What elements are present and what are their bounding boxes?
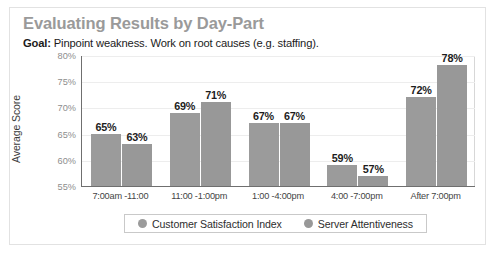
bar-group: 69%71% (170, 55, 231, 186)
bar[interactable] (437, 65, 467, 186)
legend-label: Customer Satisfaction Index (152, 218, 282, 230)
y-axis-tick-label: 75% (58, 77, 76, 87)
bar-group: 65%63% (91, 55, 152, 186)
bar-chart: Average Score 80%75%70%65%60%55% 65%63%6… (23, 56, 475, 208)
bar-value-label: 69% (165, 100, 205, 112)
goal-subtitle: Goal: Pinpoint weakness. Work on root ca… (23, 37, 319, 49)
bar[interactable] (249, 123, 279, 186)
bar-group: 59%57% (327, 55, 388, 186)
bar-value-label: 57% (353, 163, 393, 175)
bar-value-label: 72% (401, 84, 441, 96)
x-axis-tick-label: 4:00 -7:00pm (317, 191, 396, 201)
bar-value-label: 67% (275, 110, 315, 122)
bar-value-label: 78% (432, 52, 472, 64)
x-axis-tick-label: 1:00 -4:00pm (239, 191, 318, 201)
legend-label: Server Attentiveness (318, 218, 413, 230)
bar[interactable] (170, 113, 200, 186)
y-axis-tick-label: 65% (58, 130, 76, 140)
bar[interactable] (280, 123, 310, 186)
y-axis-ticks: 80%75%70%65%60%55% (49, 56, 79, 187)
y-axis-tick-label: 70% (58, 103, 76, 113)
bar-group: 67%67% (249, 55, 310, 186)
y-axis-tick-label: 60% (58, 156, 76, 166)
y-axis-tick-label: 55% (58, 182, 76, 192)
bar-value-label: 63% (117, 131, 157, 143)
bar[interactable] (358, 176, 388, 186)
y-axis-tick-label: 80% (58, 51, 76, 61)
x-axis-tick-label: 11:00 -1:00pm (160, 191, 239, 201)
legend-item[interactable]: Server Attentiveness (304, 218, 413, 230)
bar-group: 72%78% (406, 55, 467, 186)
legend-item[interactable]: Customer Satisfaction Index (138, 218, 282, 230)
page-title: Evaluating Results by Day-Part (23, 14, 264, 33)
circle-marker-icon (138, 219, 147, 228)
bar-value-label: 71% (196, 89, 236, 101)
bar[interactable] (201, 102, 231, 186)
chart-card: Evaluating Results by Day-Part Goal: Pin… (9, 7, 486, 245)
goal-description: Pinpoint weakness. Work on root causes (… (51, 37, 319, 49)
x-axis-tick-label: After 7:00pm (396, 191, 475, 201)
plot-right-edge (474, 56, 475, 186)
x-axis-ticks: 7:00am -11:0011:00 -1:00pm1:00 -4:00pm4:… (81, 191, 475, 207)
bar[interactable] (122, 144, 152, 186)
circle-marker-icon (304, 219, 313, 228)
chart-legend: Customer Satisfaction IndexServer Attent… (124, 214, 427, 233)
x-axis-tick-label: 7:00am -11:00 (81, 191, 160, 201)
bar[interactable] (406, 97, 436, 186)
goal-label: Goal: (23, 37, 51, 49)
y-axis-title: Average Score (10, 84, 22, 174)
plot-area: 65%63%69%71%67%67%59%57%72%78% (81, 56, 475, 187)
